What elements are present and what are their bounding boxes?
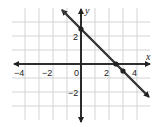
graph-line-end: [62, 10, 149, 97]
y-axis-label: y: [84, 5, 90, 16]
origin-label: 0: [74, 68, 79, 78]
x-tick-label: 2: [104, 68, 109, 78]
x-tick-label: 4: [132, 68, 137, 78]
x-tick-label: −4: [14, 68, 24, 78]
x-tick-label: −2: [42, 68, 52, 78]
y-tick-label: 2: [73, 32, 78, 42]
data-point: [120, 68, 125, 73]
x-intercept-point: [113, 61, 118, 66]
coordinate-graph: x y −4 −2 0 2 4 2 −2: [0, 0, 157, 127]
x-axis-label: x: [145, 51, 151, 62]
y-intercept-point: [78, 26, 83, 31]
y-tick-label: −2: [68, 88, 78, 98]
